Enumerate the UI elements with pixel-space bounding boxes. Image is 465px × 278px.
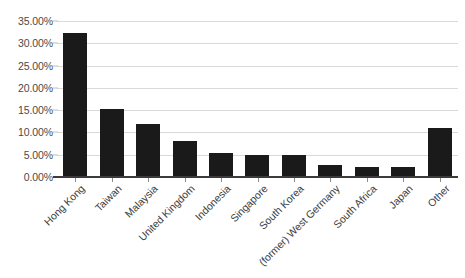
bar-slot	[349, 21, 385, 177]
x-axis-tick-mark	[148, 178, 149, 182]
x-axis-label-text: Malaysia	[122, 182, 159, 219]
y-axis-tick-label: 25.00%	[1, 60, 53, 72]
x-axis-tick-mark	[440, 178, 441, 182]
x-axis-tick-mark	[294, 178, 295, 182]
y-axis-tick-label: 10.00%	[1, 126, 53, 138]
bar-slot	[312, 21, 348, 177]
x-axis-tick-mark	[367, 178, 368, 182]
bar-slot	[239, 21, 275, 177]
bar-slot	[276, 21, 312, 177]
bar[interactable]	[63, 33, 87, 177]
bar-slot	[422, 21, 458, 177]
bar[interactable]	[428, 128, 452, 177]
x-axis-tick-mark	[258, 178, 259, 182]
x-axis-label-text: Other	[425, 182, 452, 209]
bar-slot	[385, 21, 421, 177]
bar-series	[57, 21, 458, 177]
x-axis-label-text: Indonesia	[192, 182, 232, 222]
x-axis-label: Taiwan	[93, 183, 124, 214]
x-axis-label-text: Taiwan	[92, 182, 123, 213]
bar-chart: 35.00% 30.00% 25.00% 20.00% 15.00% 10.00…	[0, 0, 465, 278]
bar-slot	[93, 21, 129, 177]
bar[interactable]	[100, 109, 124, 177]
x-axis-label-text: Japan	[387, 182, 416, 211]
bar-slot	[57, 21, 93, 177]
bar-slot	[203, 21, 239, 177]
x-axis-tick-mark	[403, 178, 404, 182]
bar[interactable]	[136, 124, 160, 177]
x-axis-tick-mark	[330, 178, 331, 182]
x-axis-labels: Hong KongTaiwanMalaysiaUnited KingdomInd…	[57, 183, 458, 278]
y-axis-tick-label: 15.00%	[1, 104, 53, 116]
x-axis-label: Japan	[387, 183, 416, 212]
y-axis-tick-label: 35.00%	[1, 15, 53, 27]
bar[interactable]	[209, 153, 233, 178]
y-axis-tick-label: 30.00%	[1, 37, 53, 49]
x-axis-tick-mark	[185, 178, 186, 182]
x-axis-tick-mark	[75, 178, 76, 182]
y-axis: 35.00% 30.00% 25.00% 20.00% 15.00% 10.00…	[0, 0, 53, 278]
x-axis-line	[53, 176, 458, 178]
bar-slot	[166, 21, 202, 177]
x-axis-tick-mark	[112, 178, 113, 182]
y-axis-tick-label: 20.00%	[1, 82, 53, 94]
y-axis-tick-label: 0.00%	[1, 171, 53, 183]
bar[interactable]	[282, 155, 306, 177]
x-axis-tick-mark	[221, 178, 222, 182]
bar[interactable]	[245, 155, 269, 177]
bar[interactable]	[173, 141, 197, 177]
x-axis-label: Other	[425, 183, 452, 210]
y-axis-tick-label: 5.00%	[1, 149, 53, 161]
bar-slot	[130, 21, 166, 177]
x-axis-label: Indonesia	[193, 183, 233, 223]
